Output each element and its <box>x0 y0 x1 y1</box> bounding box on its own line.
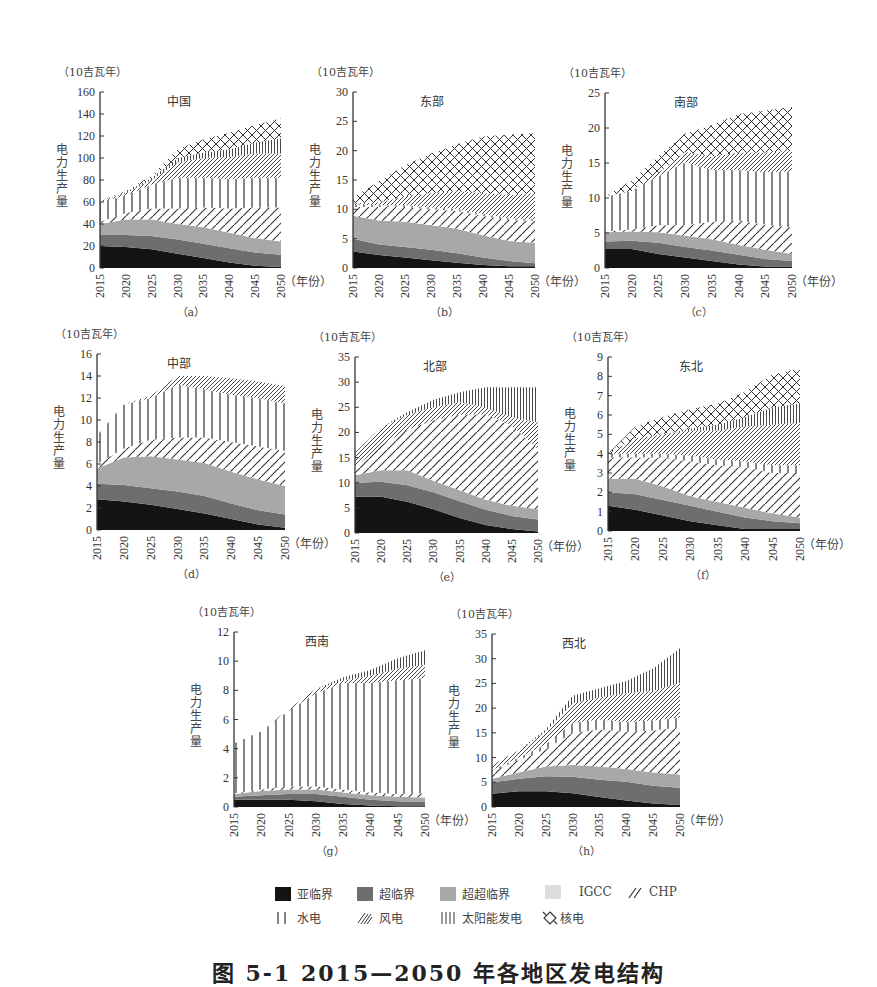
chart-panel-c: 0510152025201520202025203020352040204520… <box>561 66 843 319</box>
panel-label: （d） <box>177 568 206 581</box>
unit-label: （10吉瓦年） <box>313 330 382 344</box>
x-tick-label: 2045 <box>502 274 516 298</box>
x-tick-label: 2025 <box>282 813 296 837</box>
y-tick-label: 6 <box>86 457 92 471</box>
y-axis-label-char: 生 <box>309 169 321 183</box>
y-tick-label: 2 <box>86 501 92 515</box>
x-tick-label: 2015 <box>90 536 104 560</box>
legend-label: 核电 <box>560 909 584 926</box>
y-axis-label-char: 电 <box>561 144 573 158</box>
x-axis-label: （年份） <box>288 537 336 551</box>
swatch-supercritical <box>357 887 373 901</box>
x-tick-label: 2030 <box>309 813 323 837</box>
unit-label: （10吉瓦年） <box>192 605 261 619</box>
x-tick-label: 2040 <box>363 813 377 837</box>
x-tick-label: 2020 <box>512 813 526 837</box>
swatch-igcc <box>545 885 561 899</box>
x-tick-label: 2030 <box>424 274 438 298</box>
chart-title: 中部 <box>167 356 191 371</box>
y-axis-label-char: 生 <box>190 709 202 723</box>
y-tick-label: 0 <box>86 523 92 537</box>
y-tick-label: 5 <box>344 501 350 515</box>
y-tick-label: 25 <box>338 400 350 414</box>
y-tick-label: 9 <box>597 350 603 364</box>
legend-label: IGCC <box>579 885 612 899</box>
panel-label: （a） <box>177 306 206 319</box>
y-tick-label: 5 <box>481 775 487 789</box>
area-hydro <box>605 162 792 231</box>
y-axis-label-char: 电 <box>311 408 323 422</box>
unit-label: （10吉瓦年） <box>55 327 124 341</box>
x-axis-label: （年份） <box>538 275 586 289</box>
x-axis-label: （年份） <box>683 814 731 828</box>
y-tick-label: 20 <box>83 239 95 253</box>
y-tick-label: 15 <box>336 173 348 187</box>
x-tick-label: 2015 <box>601 537 615 561</box>
chart-title: 东部 <box>420 94 444 109</box>
unit-label: （10吉瓦年） <box>58 65 127 79</box>
unit-label: （10吉瓦年） <box>566 330 635 344</box>
y-tick-label: 15 <box>588 156 600 170</box>
y-axis-label-char: 力 <box>311 421 323 435</box>
y-tick-label: 0 <box>344 526 350 540</box>
y-axis-label-char: 生 <box>448 710 460 724</box>
area-hydro <box>234 678 425 794</box>
y-tick-label: 4 <box>86 479 92 493</box>
x-tick-label: 2025 <box>539 813 553 837</box>
y-tick-label: 8 <box>223 683 229 697</box>
y-tick-label: 10 <box>475 751 487 765</box>
legend-item-subcritical: 亚临界 <box>275 885 333 902</box>
x-tick-label: 2030 <box>171 536 185 560</box>
y-tick-label: 15 <box>475 726 487 740</box>
y-axis-label-char: 生 <box>311 434 323 448</box>
swatch-subcritical <box>275 887 291 901</box>
y-axis-label-char: 量 <box>311 460 323 474</box>
x-axis-label: （年份） <box>795 275 843 289</box>
legend-label: 超超临界 <box>462 885 510 902</box>
y-tick-label: 8 <box>86 435 92 449</box>
x-axis-label: （年份） <box>541 540 589 554</box>
x-tick-label: 2030 <box>566 813 580 837</box>
y-tick-label: 12 <box>80 391 92 405</box>
x-tick-label: 2020 <box>628 537 642 561</box>
x-tick-label: 2015 <box>485 813 499 837</box>
x-tick-label: 2040 <box>479 539 493 563</box>
x-tick-label: 2040 <box>619 813 633 837</box>
y-axis-label-char: 生 <box>564 433 576 447</box>
y-tick-label: 12 <box>217 625 229 639</box>
y-axis-label-char: 生 <box>53 431 65 445</box>
x-tick-label: 2015 <box>346 274 360 298</box>
chart-panel-h: 0510152025303520152020202520302035204020… <box>448 607 731 858</box>
y-axis-label-char: 量 <box>190 735 202 749</box>
legend-item-solar: 太阳能发电 <box>440 909 522 926</box>
y-tick-label: 5 <box>342 232 348 246</box>
x-tick-label: 2035 <box>197 536 211 560</box>
y-axis-label-char: 产 <box>309 182 321 196</box>
y-tick-label: 3 <box>597 466 603 480</box>
x-tick-label: 2045 <box>251 536 265 560</box>
y-axis-label-char: 生 <box>56 169 68 183</box>
wind-hatch-icon <box>357 911 373 925</box>
y-tick-label: 120 <box>77 129 95 143</box>
y-tick-label: 10 <box>338 476 350 490</box>
y-tick-label: 1 <box>597 505 603 519</box>
y-tick-label: 0 <box>594 261 600 275</box>
y-tick-label: 6 <box>597 408 603 422</box>
y-tick-label: 10 <box>217 654 229 668</box>
x-tick-label: 2015 <box>93 274 107 298</box>
x-tick-label: 2035 <box>705 274 719 298</box>
chart-title: 西北 <box>562 637 586 651</box>
y-tick-label: 40 <box>83 217 95 231</box>
y-tick-label: 20 <box>336 144 348 158</box>
panel-label: （h） <box>572 845 601 858</box>
x-tick-label: 2045 <box>391 813 405 837</box>
x-tick-label: 2020 <box>119 274 133 298</box>
y-tick-label: 80 <box>83 173 95 187</box>
y-axis-label-char: 力 <box>56 156 68 170</box>
y-tick-label: 30 <box>475 652 487 666</box>
x-tick-label: 2045 <box>248 274 262 298</box>
legend-item-hydro: 水电 <box>275 909 321 926</box>
y-axis-label-char: 电 <box>448 684 460 698</box>
x-tick-label: 2040 <box>732 274 746 298</box>
